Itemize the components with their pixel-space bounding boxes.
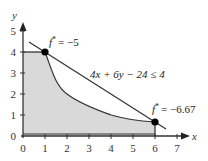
point1-annotation: f*= −5 (49, 35, 79, 48)
y-tick-label: 5 (11, 25, 17, 37)
y-tick-label: 0 (11, 130, 17, 142)
optimal-point-1 (41, 48, 48, 55)
x-axis-arrow-icon (181, 133, 190, 140)
y-tick-label: 2 (11, 88, 17, 100)
constraint-annotation: 4x + 6y − 24 ≤ 4 (90, 68, 165, 80)
x-tick-label: 6 (152, 142, 158, 154)
y-tick-label: 4 (11, 46, 17, 58)
x-tick-label: 7 (174, 142, 180, 154)
x-tick-label: 2 (64, 142, 70, 154)
y-axis-arrow-icon (20, 22, 27, 31)
x-tick-label: 1 (42, 142, 48, 154)
optimal-point-2 (151, 118, 158, 125)
x-tick-label: 4 (108, 142, 114, 154)
point2-annotation: f*= −6.67 (152, 102, 196, 115)
y-tick-label: 3 (11, 67, 17, 79)
x-tick-label: 3 (86, 142, 92, 154)
y-tick-label: 1 (11, 109, 17, 121)
x-axis-label: x (191, 130, 197, 142)
y-axis-label: y (11, 9, 17, 21)
x-tick-label: 0 (20, 142, 26, 154)
feasible-region (23, 52, 155, 136)
x-tick-label: 5 (130, 142, 136, 154)
chart: 0 1 2 3 4 5 6 7 0 1 2 3 4 5 x y f*= −5 f… (0, 0, 208, 161)
